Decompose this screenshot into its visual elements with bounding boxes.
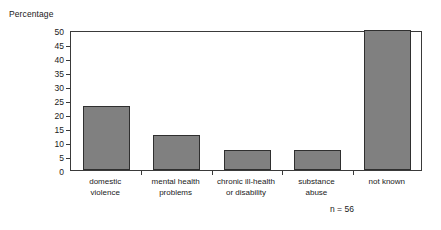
- y-axis-tick: [66, 46, 71, 47]
- x-axis-tick: [353, 170, 354, 175]
- y-axis-tick-label: 30: [55, 84, 64, 93]
- y-axis-tick: [66, 116, 71, 117]
- y-axis-tick-label: 50: [55, 28, 64, 37]
- y-axis-tick-label: 0: [59, 168, 64, 177]
- bar: [153, 135, 200, 170]
- y-axis-tick-label: 10: [55, 140, 64, 149]
- bar-chart-figure: Percentage 05101520253035404550 n = 56 d…: [0, 0, 441, 230]
- y-axis-tick-label: 5: [59, 154, 64, 163]
- y-axis-title: Percentage: [9, 9, 53, 19]
- x-axis-category-label: not known: [344, 176, 430, 187]
- y-axis-tick-label: 20: [55, 112, 64, 121]
- y-axis-tick: [66, 102, 71, 103]
- x-axis-tick: [212, 170, 213, 175]
- y-axis-tick: [66, 144, 71, 145]
- y-axis-tick-label: 35: [55, 70, 64, 79]
- y-axis-tick: [66, 88, 71, 89]
- plot-frame: 05101520253035404550: [70, 31, 422, 171]
- y-axis-tick: [66, 74, 71, 75]
- x-axis-tick: [141, 170, 142, 175]
- y-axis-tick-label: 40: [55, 56, 64, 65]
- bar: [364, 30, 411, 170]
- x-axis-tick: [282, 170, 283, 175]
- y-axis-tick-label: 15: [55, 126, 64, 135]
- y-axis-tick: [66, 60, 71, 61]
- y-axis-tick: [66, 130, 71, 131]
- sample-size-annotation: n = 56: [330, 204, 354, 214]
- bar: [294, 150, 341, 170]
- bar: [83, 106, 130, 170]
- plot-area: 05101520253035404550: [71, 32, 421, 170]
- bar: [224, 150, 271, 170]
- y-axis-tick-label: 25: [55, 98, 64, 107]
- y-axis-tick-label: 45: [55, 42, 64, 51]
- y-axis-tick: [66, 158, 71, 159]
